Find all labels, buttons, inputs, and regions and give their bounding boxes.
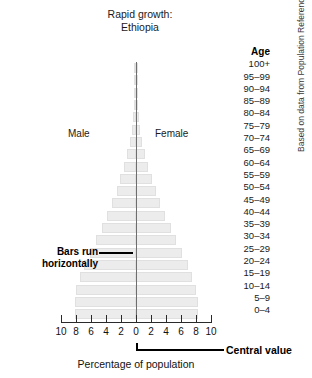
annotation-bars-run: Bars run horizontally <box>6 246 98 270</box>
x-axis-tick-label: 10 <box>201 326 221 337</box>
age-tick-label: 0–4 <box>222 304 270 316</box>
bar-male <box>112 198 136 208</box>
bar-female <box>136 211 165 221</box>
age-tick-label: 90–94 <box>222 83 270 95</box>
annotation-bars-run-leader-line <box>99 252 133 254</box>
bar-male <box>75 297 137 307</box>
legend-label-female: Female <box>155 128 188 139</box>
x-axis-tick <box>166 315 167 323</box>
x-axis-tick <box>76 315 77 323</box>
source-credit: Based on data from Population Reference … <box>296 0 306 152</box>
age-tick-label: 30–34 <box>222 230 270 242</box>
bar-male <box>76 285 136 295</box>
x-axis-tick <box>196 315 197 323</box>
bar-female <box>136 223 171 233</box>
bar-male <box>120 174 136 184</box>
bar-male <box>127 149 136 159</box>
x-axis-tick <box>61 315 62 323</box>
age-axis-header: Age <box>222 46 270 58</box>
bar-male <box>107 211 136 221</box>
age-tick-label: 60–64 <box>222 157 270 169</box>
bar-male <box>117 186 137 196</box>
bar-female <box>136 198 160 208</box>
center-axis-line <box>136 62 137 317</box>
bar-female <box>136 285 196 295</box>
bar-female <box>136 260 188 270</box>
age-tick-label: 20–24 <box>222 255 270 267</box>
x-axis-tick <box>211 315 212 323</box>
age-tick-label: 75–79 <box>222 120 270 132</box>
age-tick-label: 65–69 <box>222 144 270 156</box>
age-tick-label: 95–99 <box>222 71 270 83</box>
age-tick-label: 85–89 <box>222 95 270 107</box>
bar-female <box>136 272 192 282</box>
bar-female <box>136 149 145 159</box>
x-axis-title: Percentage of population <box>46 358 226 370</box>
age-tick-label: 10–14 <box>222 280 270 292</box>
legend-label-male: Male <box>68 128 90 139</box>
age-tick-label: 40–44 <box>222 206 270 218</box>
age-tick-label: 5–9 <box>222 292 270 304</box>
x-axis-tick <box>91 315 92 323</box>
x-axis-tick <box>181 315 182 323</box>
age-tick-label: 35–39 <box>222 218 270 230</box>
bar-female <box>136 186 156 196</box>
age-axis-column: Age 100+95–9990–9485–8980–8475–7970–7465… <box>222 46 270 317</box>
annotation-central-value-bracket-horizontal <box>136 349 224 351</box>
annotation-central-value: Central value <box>226 344 292 356</box>
bar-female <box>136 297 198 307</box>
age-tick-label: 55–59 <box>222 169 270 181</box>
age-tick-label: 100+ <box>222 58 270 70</box>
bar-male <box>102 223 137 233</box>
bar-female <box>136 162 148 172</box>
age-tick-label: 25–29 <box>222 243 270 255</box>
bar-female <box>136 235 176 245</box>
population-pyramid-figure: Rapid growth: Ethiopia Male Female Age 1… <box>0 0 312 378</box>
age-tick-label: 45–49 <box>222 194 270 206</box>
x-axis-tick <box>106 315 107 323</box>
bar-male <box>124 162 136 172</box>
age-tick-label: 15–19 <box>222 267 270 279</box>
bar-female <box>136 174 152 184</box>
bar-male <box>80 272 136 282</box>
age-tick-list: 100+95–9990–9485–8980–8475–7970–7465–696… <box>222 58 270 316</box>
x-axis-tick <box>121 315 122 323</box>
bar-female <box>136 248 182 258</box>
bar-male <box>96 235 136 245</box>
x-axis-tick <box>136 315 137 323</box>
x-axis-tick <box>151 315 152 323</box>
age-tick-label: 80–84 <box>222 107 270 119</box>
age-tick-label: 50–54 <box>222 181 270 193</box>
age-tick-label: 70–74 <box>222 132 270 144</box>
